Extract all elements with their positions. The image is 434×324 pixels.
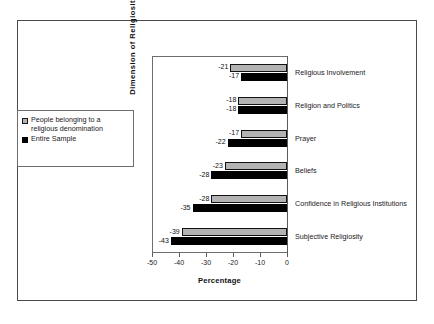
bar bbox=[241, 73, 287, 81]
x-tick bbox=[179, 253, 180, 257]
bar bbox=[225, 162, 287, 170]
x-tick bbox=[152, 253, 153, 257]
category-label: Religious Involvement bbox=[295, 69, 365, 77]
bar bbox=[230, 64, 287, 72]
bar-value-label: -17 bbox=[225, 72, 239, 80]
plot-area bbox=[152, 56, 287, 253]
bar bbox=[193, 204, 288, 212]
category-label: Subjective Religiosity bbox=[295, 233, 363, 241]
bar-value-label: -18 bbox=[222, 105, 236, 113]
y-axis-title: Dimension of Religiosity bbox=[128, 0, 137, 100]
x-tick bbox=[233, 253, 234, 257]
legend-entry-label: Entire Sample bbox=[31, 135, 76, 144]
x-tick-label: -40 bbox=[169, 259, 189, 266]
bar-value-label: -23 bbox=[209, 162, 223, 170]
bar-value-label: -39 bbox=[166, 228, 180, 236]
bar-value-label: -21 bbox=[214, 63, 228, 71]
chart-legend: People belonging to a religious denomina… bbox=[17, 110, 134, 167]
category-label: Religion and Politics bbox=[295, 102, 360, 110]
bar bbox=[241, 130, 287, 138]
bar-value-label: -35 bbox=[177, 204, 191, 212]
x-tick bbox=[287, 253, 288, 257]
bar bbox=[238, 97, 287, 105]
legend-entry-entire-sample: Entire Sample bbox=[22, 135, 129, 144]
bar-value-label: -22 bbox=[212, 138, 226, 146]
x-tick bbox=[260, 253, 261, 257]
x-tick-label: -10 bbox=[250, 259, 270, 266]
bar-value-label: -28 bbox=[195, 171, 209, 179]
bar bbox=[171, 237, 287, 245]
legend-entry-denomination: People belonging to a religious denomina… bbox=[22, 116, 129, 133]
category-label: Beliefs bbox=[295, 167, 317, 175]
bar-value-label: -43 bbox=[155, 237, 169, 245]
bar bbox=[228, 139, 287, 147]
bar bbox=[238, 106, 287, 114]
chart-figure: People belonging to a religious denomina… bbox=[0, 0, 434, 324]
x-axis-title: Percentage bbox=[152, 276, 287, 285]
category-label: Confidence in Religious Institutions bbox=[295, 200, 407, 208]
black-square-key-icon bbox=[22, 137, 28, 143]
gray-square-key-icon bbox=[22, 118, 28, 124]
x-tick bbox=[206, 253, 207, 257]
bar-value-label: -18 bbox=[222, 96, 236, 104]
bar bbox=[211, 171, 287, 179]
legend-entry-label: People belonging to a religious denomina… bbox=[31, 116, 129, 133]
x-tick-label: -20 bbox=[223, 259, 243, 266]
value-axis-zero-line bbox=[287, 56, 288, 253]
bar bbox=[182, 228, 287, 236]
category-label: Prayer bbox=[295, 135, 316, 143]
bar bbox=[211, 195, 287, 203]
x-tick-label: -30 bbox=[196, 259, 216, 266]
bar-value-label: -28 bbox=[195, 195, 209, 203]
x-tick-label: 0 bbox=[277, 259, 297, 266]
bar-value-label: -17 bbox=[225, 129, 239, 137]
x-tick-label: -50 bbox=[142, 259, 162, 266]
